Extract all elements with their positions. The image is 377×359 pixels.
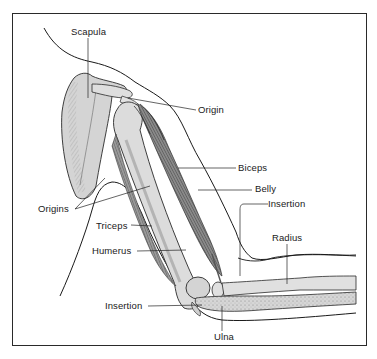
label-biceps: Biceps xyxy=(238,163,267,173)
label-origin: Origin xyxy=(198,105,224,115)
label-belly: Belly xyxy=(255,184,276,194)
label-radius: Radius xyxy=(272,233,302,243)
elbow-humeral-head xyxy=(186,277,210,299)
label-ulna: Ulna xyxy=(214,332,234,342)
label-origins: Origins xyxy=(38,204,69,214)
label-scapula: Scapula xyxy=(71,27,106,37)
forearm-top-outline xyxy=(238,255,356,261)
arm-anatomy-diagram: Scapula Origin Biceps Belly Insertion Or… xyxy=(0,0,377,359)
label-triceps: Triceps xyxy=(96,221,128,231)
arm-illustration xyxy=(0,0,377,359)
label-insertion-triceps: Insertion xyxy=(105,301,142,311)
label-insertion-biceps: Insertion xyxy=(268,199,305,209)
label-humerus: Humerus xyxy=(92,246,131,256)
